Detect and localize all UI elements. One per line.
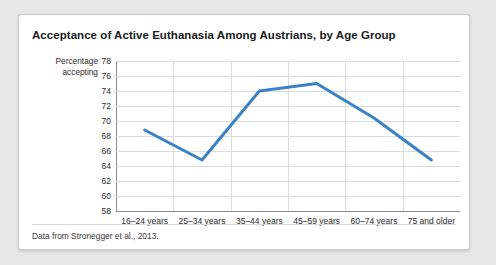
y-tick-label: 58 <box>102 206 111 216</box>
y-tick-label: 68 <box>102 131 111 141</box>
chart-caption: Data from Stronegger et al., 2013. <box>32 231 159 241</box>
caption-divider <box>32 224 456 225</box>
y-tick-label: 76 <box>102 71 111 81</box>
y-tick-label: 74 <box>102 86 111 96</box>
y-tick-label: 64 <box>102 161 111 171</box>
series-polyline <box>145 84 432 161</box>
y-tick-label: 72 <box>102 101 111 111</box>
y-tick-label: 66 <box>102 146 111 156</box>
gridline-y-58 <box>116 211 460 212</box>
plot-area: 5860626466687072747678 16–24 years25–34 … <box>116 61 460 211</box>
y-tick-label: 60 <box>102 191 111 201</box>
chart-title: Acceptance of Active Euthanasia Among Au… <box>32 29 452 41</box>
line-series <box>116 61 460 211</box>
y-tick-label: 78 <box>102 56 111 66</box>
plot-wrapper: Percentageaccepting 58606264666870727476… <box>32 53 460 219</box>
y-tick-label: 62 <box>102 176 111 186</box>
y-axis-title-text: Percentageaccepting <box>56 56 98 77</box>
y-tick-label: 70 <box>102 116 111 126</box>
y-axis-title: Percentageaccepting <box>32 56 98 77</box>
figure-card: Acceptance of Active Euthanasia Among Au… <box>18 14 470 250</box>
